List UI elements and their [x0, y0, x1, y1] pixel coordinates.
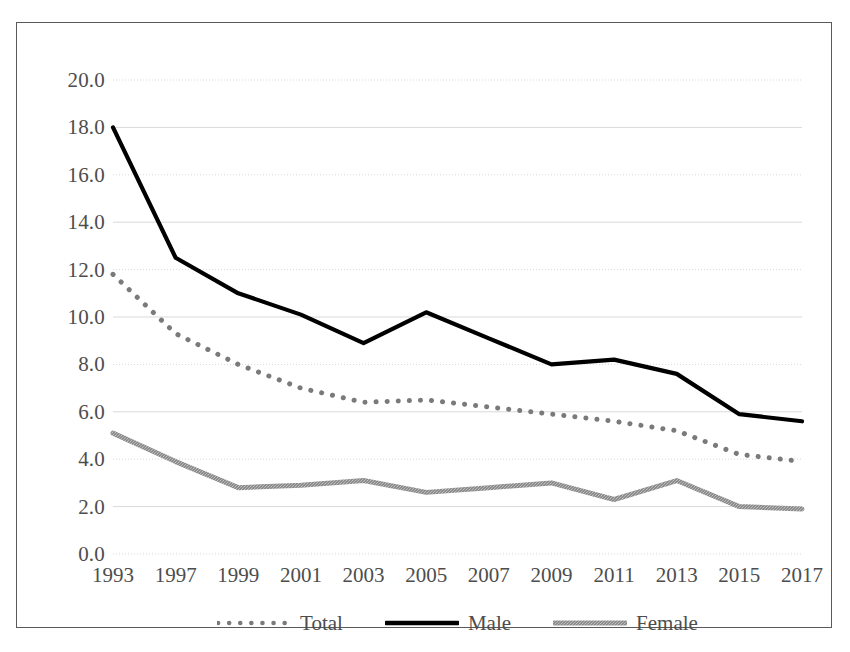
x-tick-label: 2011 [593, 563, 634, 588]
x-tick-label: 2013 [656, 563, 698, 588]
gridlines [113, 80, 802, 554]
legend-key-male-icon [385, 616, 459, 630]
x-tick-label: 2017 [781, 563, 823, 588]
y-tick-label: 14.0 [67, 210, 105, 235]
chart-legend: TotalMaleFemale [113, 608, 802, 638]
y-axis-tick-labels: 0.02.04.06.08.010.012.014.016.018.020.0 [41, 80, 105, 554]
x-tick-label: 2015 [718, 563, 760, 588]
legend-key-female-icon [553, 616, 627, 630]
series-line-male [113, 127, 802, 421]
y-tick-label: 10.0 [67, 305, 105, 330]
x-axis-tick-labels: 1993199719992001200320052007200920112013… [113, 563, 802, 593]
legend-label: Male [468, 611, 511, 636]
y-tick-label: 20.0 [67, 68, 105, 93]
x-tick-label: 2003 [343, 563, 385, 588]
plot-area [113, 80, 802, 554]
y-tick-label: 16.0 [67, 162, 105, 187]
series-line-total [113, 274, 802, 461]
x-tick-label: 2005 [405, 563, 447, 588]
y-tick-label: 2.0 [78, 494, 105, 519]
series-line-female [113, 433, 802, 509]
legend-label: Total [300, 611, 343, 636]
chart-figure: 0.02.04.06.08.010.012.014.016.018.020.0 … [0, 0, 850, 652]
x-tick-label: 1997 [155, 563, 197, 588]
legend-key-total-icon [217, 616, 291, 630]
y-tick-label: 12.0 [67, 257, 105, 282]
y-tick-label: 6.0 [78, 399, 105, 424]
y-tick-label: 4.0 [78, 447, 105, 472]
series-lines [113, 127, 802, 509]
y-tick-label: 18.0 [67, 115, 105, 140]
legend-label: Female [636, 611, 698, 636]
legend-entry-total[interactable]: Total [217, 611, 343, 636]
legend-entry-female[interactable]: Female [553, 611, 698, 636]
x-tick-label: 1999 [217, 563, 259, 588]
legend-entry-male[interactable]: Male [385, 611, 511, 636]
line-chart-svg [113, 80, 802, 554]
y-tick-label: 8.0 [78, 352, 105, 377]
x-tick-label: 2007 [468, 563, 510, 588]
x-tick-label: 1993 [92, 563, 134, 588]
x-tick-label: 2001 [280, 563, 322, 588]
chart-frame: 0.02.04.06.08.010.012.014.016.018.020.0 … [16, 22, 832, 628]
x-tick-label: 2009 [530, 563, 572, 588]
